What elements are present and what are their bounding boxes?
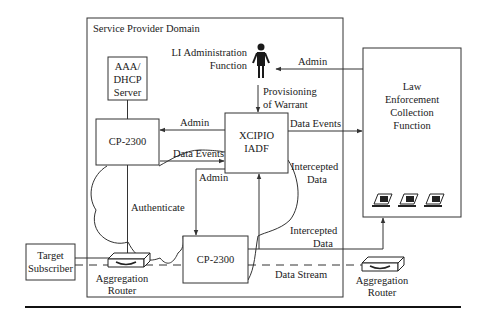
router-right-label-1: Aggregation: [356, 275, 409, 286]
router-icon-left: [108, 253, 150, 267]
li-admin-label-1: LI Administration: [171, 47, 247, 58]
data-stream-label: Data Stream: [275, 269, 327, 280]
xcipio-label-2: IADF: [244, 143, 269, 154]
data-events-cp-label: Data Events: [173, 148, 224, 159]
network-diagram: Service Provider Domain AAA/ DHCP Server…: [0, 0, 487, 319]
bottom-rule: [25, 306, 461, 308]
intercepted-2-label-2: Data: [313, 238, 333, 249]
router-icon-right: [362, 257, 404, 271]
lea-label-3: Collection: [390, 107, 434, 118]
cp2300-bottom-label: CP-2300: [197, 254, 234, 265]
aaa-label-2: DHCP: [113, 74, 141, 85]
provisioning-label-2: of Warrant: [263, 99, 308, 110]
intercepted-1-label-1: Intercepted: [291, 161, 339, 172]
cp2300-top-label: CP-2300: [109, 136, 146, 147]
router-right-label-2: Router: [368, 287, 397, 298]
aaa-label-1: AAA/: [115, 61, 141, 72]
lea-label-1: Law: [403, 81, 422, 92]
lea-label-4: Function: [393, 120, 431, 131]
xcipio-label-1: XCIPIO: [239, 130, 274, 141]
aaa-label-3: Server: [114, 87, 142, 98]
law-enforcement-box[interactable]: [363, 48, 461, 217]
domain-title: Service Provider Domain: [93, 23, 200, 34]
lea-label-2: Enforcement: [385, 94, 439, 105]
target-label-1: Target: [37, 250, 64, 261]
router-left-label-2: Router: [108, 285, 137, 296]
router-left-label-1: Aggregation: [96, 273, 149, 284]
provisioning-label-1: Provisioning: [263, 86, 317, 97]
li-admin-label-2: Function: [210, 60, 248, 71]
intercepted-1-label-2: Data: [307, 174, 327, 185]
intercepted-2-label-1: Intercepted: [290, 225, 338, 236]
admin-xcipio-label: Admin: [180, 117, 210, 128]
authenticate-label: Authenticate: [131, 202, 185, 213]
data-events-lea-label: Data Events: [290, 118, 341, 129]
target-label-2: Subscriber: [28, 263, 73, 274]
admin-cp-bottom-label: Admin: [199, 172, 229, 183]
telephone-icons: [372, 194, 444, 207]
admin-lea-label: Admin: [298, 56, 328, 67]
